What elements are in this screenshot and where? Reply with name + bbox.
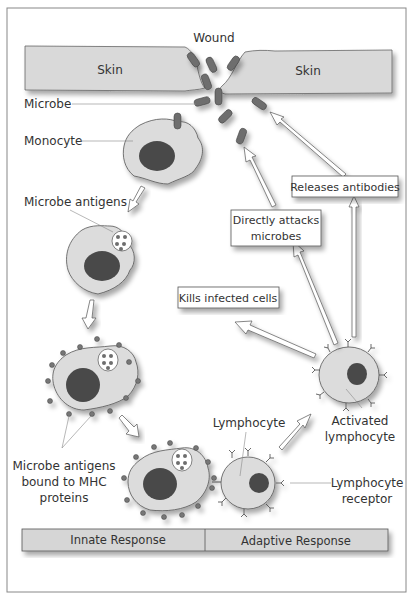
- microbe-antigens-label: Microbe antigens: [24, 195, 127, 209]
- activated-label-line2: lymphocyte: [325, 430, 395, 444]
- receptor-label-line1: Lymphocyte: [331, 476, 404, 490]
- mhc-label-line3: proteins: [40, 491, 89, 505]
- wound-label: Wound: [193, 31, 234, 45]
- activated-label-line1: Activated: [332, 414, 389, 428]
- skin-right-label: Skin: [295, 64, 321, 78]
- releases-antibodies-text: Releases antibodies: [290, 181, 400, 194]
- adaptive-response-label: Adaptive Response: [241, 534, 351, 548]
- receptor-label-line2: receptor: [342, 492, 393, 506]
- skin-left-label: Skin: [97, 63, 123, 77]
- kills-infected-text: Kills infected cells: [179, 292, 278, 305]
- directly-attacks-text-line2: microbes: [251, 230, 302, 243]
- mhc-label-line2: bound to MHC: [21, 475, 106, 489]
- directly-attacks-text-line1: Directly attacks: [233, 214, 320, 227]
- microbe-label: Microbe: [24, 97, 71, 111]
- lymphocyte-label: Lymphocyte: [213, 416, 286, 430]
- innate-response-label: Innate Response: [70, 533, 166, 547]
- immune-response-diagram: Wound Skin Skin Microbe Monocyte Microbe…: [0, 0, 416, 600]
- mhc-label-line1: Microbe antigens: [13, 459, 116, 473]
- monocyte-label: Monocyte: [24, 134, 82, 148]
